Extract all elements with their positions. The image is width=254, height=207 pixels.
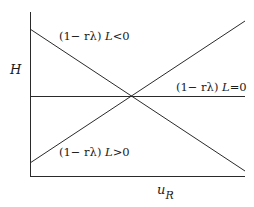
label-l-equals-zero: (1− rλ) L=0 <box>176 80 247 94</box>
x-axis-label: uR <box>157 182 174 202</box>
label-l-greater-than-zero: (1− rλ) L>0 <box>59 145 130 159</box>
y-axis-label: H <box>9 62 22 77</box>
label-l-less-than-zero: (1− rλ) L<0 <box>59 29 130 43</box>
diagram-canvas: H uR (1− rλ) L<0 (1− rλ) L=0 (1− rλ) L>0 <box>0 0 254 207</box>
